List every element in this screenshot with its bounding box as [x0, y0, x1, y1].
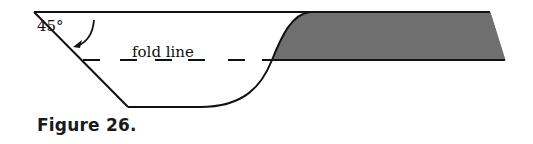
arrow-head-icon: [73, 40, 82, 48]
shaded-region: [272, 12, 505, 60]
angle-label: 45°: [37, 17, 64, 35]
fold-line-label: fold line: [132, 43, 194, 61]
figure-caption: Figure 26.: [37, 115, 137, 135]
